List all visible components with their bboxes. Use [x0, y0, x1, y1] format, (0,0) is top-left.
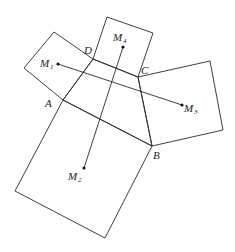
segment-m2-m4 — [84, 47, 123, 168]
label-vertex-d: D — [83, 44, 92, 56]
quadrilateral-outline — [63, 59, 152, 146]
label-vertex-a: A — [44, 97, 52, 109]
square-on-BC — [138, 61, 223, 146]
label-m2-subscript: 2 — [78, 176, 82, 184]
label-m1: M — [39, 57, 50, 69]
label-m3-subscript: 3 — [193, 108, 198, 116]
label-m4-subscript: 4 — [123, 37, 127, 45]
label-vertex-b: B — [153, 149, 160, 161]
label-m4: M — [112, 31, 123, 43]
quadrilateral-abcd — [63, 59, 152, 146]
point-m1 — [56, 62, 59, 65]
geometry-diagram: M1M2M3M4 ABCD — [0, 0, 235, 252]
label-m3: M — [183, 102, 194, 114]
label-m1-subscript: 1 — [50, 63, 54, 71]
label-vertex-c: C — [141, 64, 149, 76]
square-on-DA — [24, 32, 93, 100]
point-m2 — [82, 166, 85, 169]
point-m4 — [121, 45, 124, 48]
center-points: M1M2M3M4 — [39, 31, 198, 184]
label-m2: M — [67, 170, 78, 182]
squares-group — [15, 17, 223, 238]
